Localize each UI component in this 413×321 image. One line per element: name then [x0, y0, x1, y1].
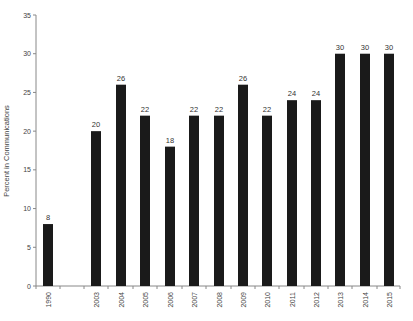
x-tick-label: 2008 — [216, 292, 223, 308]
y-axis-label: Percent in Communications — [2, 105, 11, 197]
y-tick-label: 30 — [23, 50, 31, 57]
bar-value-label: 22 — [190, 105, 198, 114]
bar — [311, 100, 321, 286]
bar-group: 222005 — [140, 105, 150, 308]
bar-group: 182006 — [165, 136, 175, 308]
x-tick-label: 2012 — [313, 292, 320, 308]
x-tick-label: 1990 — [45, 292, 52, 308]
bar — [360, 54, 370, 286]
x-axis — [36, 286, 400, 289]
bar — [43, 224, 53, 286]
x-tick-label: 2004 — [118, 292, 125, 308]
bar — [140, 116, 150, 286]
bar-group: 81990 — [43, 213, 53, 308]
bars: 8199020200326200422200518200622200722200… — [43, 43, 394, 308]
bar-chart: 05101520253035 8199020200326200422200518… — [0, 0, 413, 321]
x-tick-label: 2003 — [93, 292, 100, 308]
bar-group: 242012 — [311, 89, 321, 307]
bar-value-label: 30 — [361, 43, 369, 52]
x-tick-label: 2014 — [362, 292, 369, 308]
bar-group: 222010 — [262, 105, 272, 308]
y-tick-label: 10 — [23, 205, 31, 212]
bar — [287, 100, 297, 286]
bar-group: 242011 — [287, 89, 297, 307]
x-tick-label: 2009 — [240, 292, 247, 308]
y-tick-label: 15 — [23, 166, 31, 173]
bar-value-label: 26 — [117, 74, 125, 83]
bar-value-label: 18 — [166, 136, 174, 145]
bar-value-label: 8 — [46, 213, 50, 222]
bar-value-label: 24 — [288, 89, 296, 98]
x-tick-label: 2013 — [337, 292, 344, 308]
y-tick-label: 25 — [23, 89, 31, 96]
x-tick-label: 2005 — [142, 292, 149, 308]
bar-value-label: 22 — [141, 105, 149, 114]
bar-group: 302015 — [384, 43, 394, 308]
x-tick-label: 2006 — [167, 292, 174, 308]
bar — [262, 116, 272, 286]
x-tick-label: 2015 — [386, 292, 393, 308]
bar — [384, 54, 394, 286]
bar-group: 202003 — [91, 120, 101, 307]
bar — [91, 131, 101, 286]
bar-group: 302014 — [360, 43, 370, 308]
bar-group: 302013 — [335, 43, 345, 308]
bar-value-label: 20 — [92, 120, 100, 129]
y-tick-label: 20 — [23, 128, 31, 135]
x-tick-label: 2011 — [289, 292, 296, 307]
y-tick-label: 35 — [23, 12, 31, 19]
x-tick-label: 2010 — [264, 292, 271, 308]
y-tick-label: 0 — [27, 283, 31, 290]
bar — [189, 116, 199, 286]
bar — [214, 116, 224, 286]
bar-value-label: 22 — [263, 105, 271, 114]
bar-value-label: 26 — [239, 74, 247, 83]
bar-group: 262004 — [116, 74, 126, 308]
bar — [238, 85, 248, 286]
y-axis: 05101520253035 — [23, 12, 36, 290]
bar — [165, 147, 175, 286]
bar-value-label: 30 — [336, 43, 344, 52]
bar-value-label: 24 — [312, 89, 320, 98]
bar-group: 262009 — [238, 74, 248, 308]
y-tick-label: 5 — [27, 244, 31, 251]
x-tick-label: 2007 — [191, 292, 198, 308]
bar-value-label: 30 — [385, 43, 393, 52]
bar-group: 222007 — [189, 105, 199, 308]
bar — [335, 54, 345, 286]
bar-value-label: 22 — [215, 105, 223, 114]
bar — [116, 85, 126, 286]
bar-group: 222008 — [214, 105, 224, 308]
